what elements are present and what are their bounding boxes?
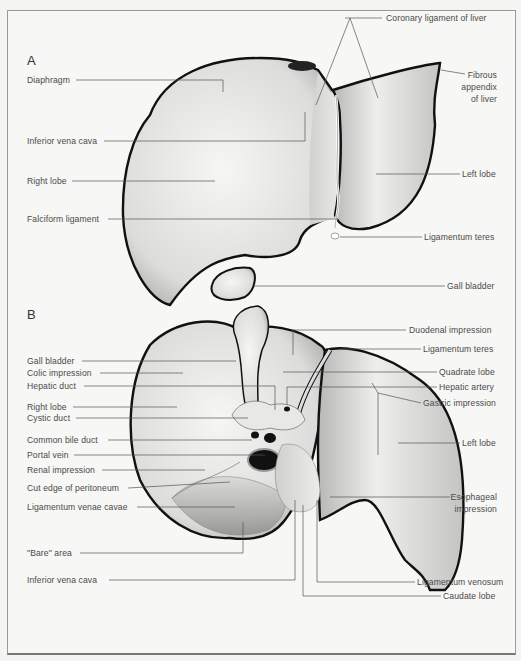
label-caudate-lobe: Caudate lobe [443,591,495,601]
label-common-bile-duct: Common bile duct [27,435,98,445]
label-inferior-vena-cava-b: Inferior vena cava [27,575,97,585]
label-fibrous: Fibrous [468,70,497,80]
liver-anterior-view [72,18,465,305]
label-inferior-vena-cava: Inferior vena cava [27,136,97,146]
label-falciform-ligament: Falciform ligament [27,214,99,224]
label-diaphragm: Diaphragm [27,75,70,85]
label-gastric-impression: Gastric impression [423,398,496,408]
label-cut-edge-peritoneum: Cut edge of peritoneum [27,483,119,493]
label-of-liver: of liver [471,94,497,104]
label-impression: impression [454,504,497,514]
label-portal-vein: Portal vein [27,450,69,460]
label-renal-impression: Renal impression [27,465,95,475]
label-ligamentum-teres-b: Ligamentum teres [423,344,493,354]
panel-label-b: B [27,307,36,322]
panel-label-a: A [27,53,36,68]
label-ligamentum-venosum: Ligamentum venosum [417,577,503,587]
label-esophageal: Esophageal [451,492,497,502]
liver-visceral-view [73,306,463,596]
label-gall-bladder-a: Gall bladder [447,281,495,291]
label-colic-impression: Colic impression [27,368,92,378]
label-cystic-duct: Cystic duct [27,413,70,423]
label-hepatic-duct: Hepatic duct [27,381,76,391]
label-hepatic-artery: Hepatic artery [439,382,494,392]
label-left-lobe-b: Left lobe [462,438,496,448]
label-ligamentum-venae-cavae: Ligamentum venae cavae [27,502,128,512]
label-right-lobe-b: Right lobe [27,402,67,412]
label-appendix: appendix [461,82,497,92]
label-coronary-ligament: Coronary ligament of liver [386,13,487,23]
label-gall-bladder-b: Gall bladder [27,356,75,366]
label-right-lobe: Right lobe [27,176,67,186]
label-duodenal-impression: Duodenal impression [409,325,492,335]
label-ligamentum-teres-a: Ligamentum teres [424,232,494,242]
label-bare-area: "Bare" area [27,548,72,558]
label-left-lobe-a: Left lobe [462,169,496,179]
label-quadrate-lobe: Quadrate lobe [439,367,495,377]
